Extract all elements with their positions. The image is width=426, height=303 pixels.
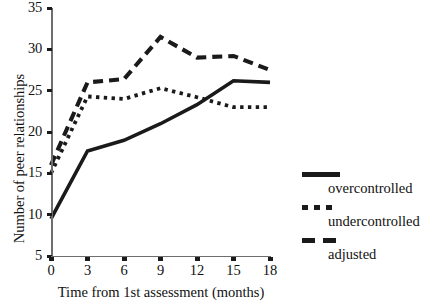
y-tick: [47, 89, 52, 92]
x-tick: [195, 257, 200, 261]
legend-item-overcontrolled: overcontrolled: [302, 168, 426, 198]
legend-item-undercontrolled: undercontrolled: [302, 201, 426, 231]
x-tick: [85, 257, 90, 261]
legend-label-adjusted: adjusted: [328, 246, 376, 262]
x-tick: [231, 257, 236, 261]
x-tick-label: 6: [109, 262, 139, 278]
legend-swatch-solid-icon: [302, 172, 340, 177]
x-tick-label: 0: [36, 262, 66, 278]
x-tick: [268, 257, 273, 261]
x-tick-label: 18: [255, 262, 285, 278]
x-tick: [49, 257, 54, 261]
legend-swatch-dotted-icon: [302, 205, 332, 210]
chart-figure: 5101520253035 0369121518 Number of peer …: [0, 0, 426, 303]
x-tick: [158, 257, 163, 261]
legend-item-adjusted: adjusted: [302, 234, 426, 264]
y-tick-label: 35: [14, 0, 42, 15]
legend-label-overcontrolled: overcontrolled: [328, 180, 413, 196]
y-tick: [47, 131, 52, 134]
y-tick: [47, 172, 52, 175]
legend-swatch-dashed-icon: [302, 238, 336, 243]
y-tick: [47, 7, 52, 10]
y-tick: [47, 48, 52, 51]
x-axis-title: Time from 1st assessment (months): [51, 284, 271, 301]
x-tick: [122, 257, 127, 261]
legend-label-undercontrolled: undercontrolled: [328, 213, 420, 229]
x-tick-label: 3: [73, 262, 103, 278]
x-tick-label: 9: [146, 262, 176, 278]
y-tick: [47, 213, 52, 216]
chart-legend: overcontrolled undercontrolled adjusted: [302, 168, 426, 268]
y-axis-title: Number of peer relationships: [11, 44, 28, 274]
x-tick-label: 15: [219, 262, 249, 278]
x-tick-label: 12: [182, 262, 212, 278]
